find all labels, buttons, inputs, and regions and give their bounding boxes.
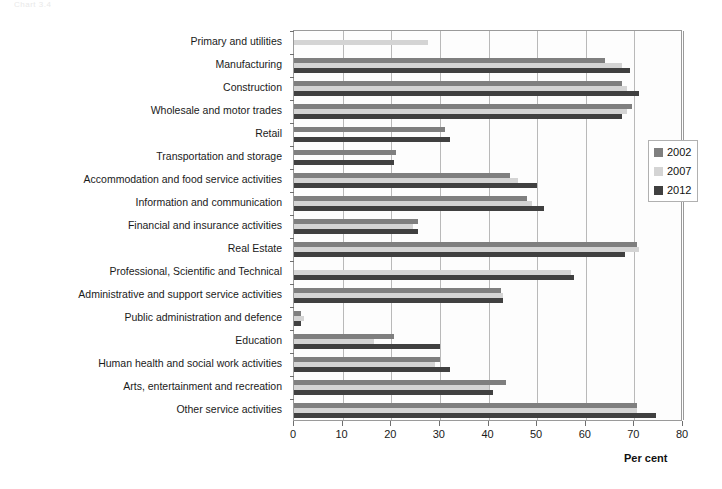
bar-rows <box>294 31 681 420</box>
bar-2012 <box>294 252 625 257</box>
bar-2012 <box>294 114 622 119</box>
category-label: Transportation and storage <box>156 151 282 162</box>
bar-2012 <box>294 321 301 326</box>
bar-group <box>294 100 681 123</box>
bar-group <box>294 192 681 215</box>
y-axis-tick <box>290 192 294 193</box>
bar-group <box>294 307 681 330</box>
category-label: Financial and insurance activities <box>128 220 282 231</box>
legend-label: 2007 <box>667 165 691 177</box>
y-axis-tick <box>290 284 294 285</box>
y-axis-tick <box>290 123 294 124</box>
gridline-80 <box>683 31 684 420</box>
bar-2012 <box>294 390 493 395</box>
category-label: Construction <box>223 82 282 93</box>
bar-2012 <box>294 137 450 142</box>
y-axis-tick <box>290 169 294 170</box>
y-axis-tick <box>290 261 294 262</box>
category-label: Real Estate <box>228 243 282 254</box>
x-axis-label-20: 20 <box>384 428 396 440</box>
bar-2012 <box>294 183 537 188</box>
legend-swatch-icon <box>654 167 663 176</box>
bar-group <box>294 261 681 284</box>
x-axis-tick-30 <box>439 421 440 426</box>
x-axis-label-60: 60 <box>579 428 591 440</box>
bar-2012 <box>294 91 639 96</box>
y-axis-tick <box>290 54 294 55</box>
y-axis-tick <box>290 215 294 216</box>
x-axis-tick-70 <box>633 421 634 426</box>
x-axis-label-80: 80 <box>676 428 688 440</box>
category-label: Information and communication <box>136 197 283 208</box>
ghost-caption: Chart 3.4 <box>14 0 51 8</box>
x-axis-tick-80 <box>682 421 683 426</box>
plot-area <box>293 30 682 421</box>
bar-2012 <box>294 229 418 234</box>
bar-2012 <box>294 160 394 165</box>
category-label: Administrative and support service activ… <box>78 289 282 300</box>
legend-item-2007[interactable]: 2007 <box>654 165 691 177</box>
bar-2012 <box>294 206 544 211</box>
category-label: Retail <box>255 128 282 139</box>
x-axis-label-40: 40 <box>481 428 493 440</box>
x-axis-label-30: 30 <box>433 428 445 440</box>
bar-group <box>294 77 681 100</box>
bar-2012 <box>294 367 450 372</box>
category-label: Accommodation and food service activitie… <box>84 174 282 185</box>
bar-group <box>294 376 681 399</box>
bar-group <box>294 169 681 192</box>
bar-2012 <box>294 298 503 303</box>
y-axis-tick <box>290 100 294 101</box>
legend: 200220072012 <box>648 140 698 202</box>
legend-label: 2002 <box>667 146 691 158</box>
y-axis-tick <box>290 307 294 308</box>
x-axis-tick-20 <box>390 421 391 426</box>
category-axis-labels: Primary and utilitiesManufacturingConstr… <box>0 30 288 421</box>
y-axis-tick <box>290 146 294 147</box>
bar-2012 <box>294 413 656 418</box>
category-label: Primary and utilities <box>190 36 282 47</box>
y-axis-tick <box>290 31 294 32</box>
bar-2012 <box>294 275 574 280</box>
bar-missing-2012 <box>294 45 681 50</box>
x-axis: 01020304050607080 <box>293 421 682 445</box>
y-axis-tick <box>290 330 294 331</box>
y-axis-tick <box>290 77 294 78</box>
category-label: Professional, Scientific and Technical <box>109 266 282 277</box>
x-axis-tick-0 <box>293 421 294 426</box>
bar-group <box>294 123 681 146</box>
bar-2012 <box>294 344 440 349</box>
bar-group <box>294 353 681 376</box>
y-axis-tick <box>290 376 294 377</box>
legend-item-2012[interactable]: 2012 <box>654 184 691 196</box>
bar-group <box>294 399 681 422</box>
category-label: Manufacturing <box>215 59 282 70</box>
legend-swatch-icon <box>654 148 663 157</box>
bar-group <box>294 284 681 307</box>
category-label: Public administration and defence <box>124 312 282 323</box>
category-label: Wholesale and motor trades <box>151 105 282 116</box>
bar-group <box>294 330 681 353</box>
bar-group <box>294 238 681 261</box>
bar-2012 <box>294 68 630 73</box>
x-axis-label-50: 50 <box>530 428 542 440</box>
legend-item-2002[interactable]: 2002 <box>654 146 691 158</box>
category-label: Other service activities <box>176 404 282 415</box>
category-label: Arts, entertainment and recreation <box>123 381 282 392</box>
legend-label: 2012 <box>667 184 691 196</box>
x-axis-label-0: 0 <box>290 428 296 440</box>
chart-container: Chart 3.4 Primary and utilitiesManufactu… <box>0 0 722 489</box>
category-label: Education <box>235 335 282 346</box>
x-axis-label-70: 70 <box>627 428 639 440</box>
category-label: Human health and social work activities <box>98 358 282 369</box>
x-axis-label-10: 10 <box>336 428 348 440</box>
bar-group <box>294 31 681 54</box>
legend-swatch-icon <box>654 186 663 195</box>
bar-group <box>294 54 681 77</box>
x-axis-tick-10 <box>342 421 343 426</box>
y-axis-tick <box>290 399 294 400</box>
y-axis-tick <box>290 238 294 239</box>
x-axis-tick-60 <box>585 421 586 426</box>
x-axis-title: Per cent <box>624 452 667 464</box>
x-axis-tick-50 <box>536 421 537 426</box>
